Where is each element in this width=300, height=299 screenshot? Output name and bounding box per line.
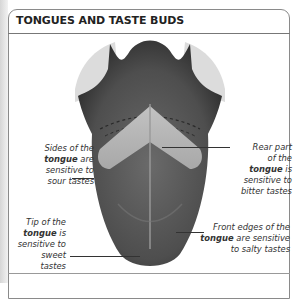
leader-sour [72, 178, 94, 179]
page-gutter [0, 0, 8, 283]
label-sweet: Tip of the tongue is sensitive to sweet … [14, 217, 66, 272]
label-salty: Front edges of the tongue are sensitive … [192, 222, 290, 255]
leader-sweet [70, 256, 140, 257]
label-bitter: Rear part of the tongue is sensitive to … [232, 142, 292, 197]
leader-bitter [162, 147, 230, 148]
label-sour: Sides of the tongue are sensitive to sou… [24, 143, 94, 187]
bottom-divider [8, 273, 290, 274]
leader-salty [176, 232, 204, 233]
diagram-title: TONGUES AND TASTE BUDS [16, 14, 184, 27]
